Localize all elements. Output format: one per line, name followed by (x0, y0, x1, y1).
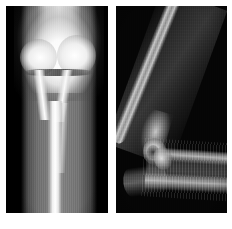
xray-panel-lateral[interactable] (116, 6, 227, 213)
radiograph-figure (0, 0, 232, 229)
xray-panel-ap[interactable] (6, 6, 108, 213)
ap-forearm-diaphysis (47, 101, 63, 213)
